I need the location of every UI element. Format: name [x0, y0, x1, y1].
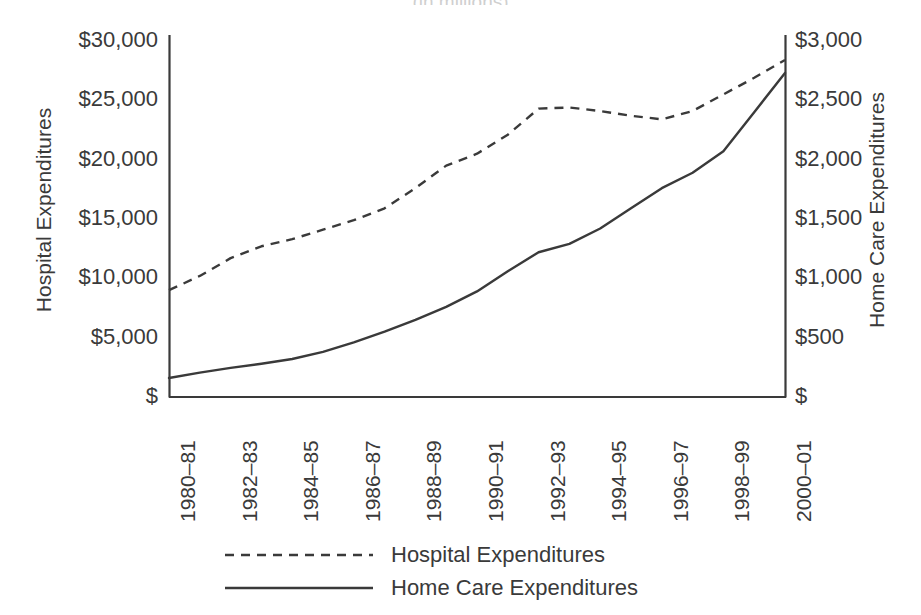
plot-area	[0, 0, 921, 615]
series-line-hospital-expenditures	[169, 60, 785, 290]
legend-label-hospital-expenditures: Hospital Expenditures	[391, 542, 605, 568]
series-line-home-care-expenditures	[169, 73, 785, 378]
legend-item: Hospital Expenditures	[225, 538, 695, 571]
axis-lines	[169, 35, 786, 398]
dual-axis-line-chart: (in millions) Hospital Expenditures Home…	[0, 0, 921, 615]
legend-swatch-solid	[225, 581, 373, 595]
legend-swatch-dashed	[225, 548, 373, 562]
legend-label-home-care-expenditures: Home Care Expenditures	[391, 575, 638, 601]
chart-legend: Hospital Expenditures Home Care Expendit…	[225, 538, 695, 604]
legend-item: Home Care Expenditures	[225, 571, 695, 604]
